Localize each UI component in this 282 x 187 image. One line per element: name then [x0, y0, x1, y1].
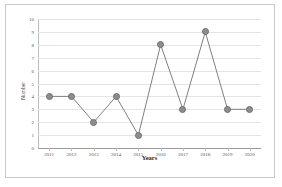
x-axis-tick-mark [183, 148, 184, 151]
y-axis-tick-label: 5 [32, 81, 35, 86]
y-axis-tick-label: 7 [32, 55, 35, 60]
y-axis-tick-label: 9 [32, 29, 35, 34]
x-axis-tick-mark [94, 148, 95, 151]
data-point [224, 106, 231, 113]
x-axis-title: Years [38, 155, 261, 162]
y-axis-tick-label: 0 [32, 146, 35, 151]
line-series [38, 19, 261, 148]
y-axis-tick-label: 10 [29, 17, 34, 22]
data-point [90, 119, 97, 126]
x-axis-tick-mark [138, 148, 139, 151]
x-axis-tick-mark [49, 148, 50, 151]
x-axis-tick-mark [250, 148, 251, 151]
y-axis-tick-label: 4 [32, 94, 35, 99]
data-point [68, 93, 75, 100]
x-axis-tick-mark [228, 148, 229, 151]
data-point [135, 132, 142, 139]
plot-area: 012345678910 201120122013201420152016201… [38, 19, 261, 148]
data-point [46, 93, 53, 100]
x-axis-tick-mark [116, 148, 117, 151]
y-axis-tick-label: 3 [32, 107, 35, 112]
x-axis-tick-mark [161, 148, 162, 151]
y-axis-tick-label: 8 [32, 42, 35, 47]
y-axis-title: Number [21, 82, 27, 100]
chart-container: Number 012345678910 20112012201320142015… [5, 4, 275, 178]
y-axis-tick-label: 2 [32, 120, 35, 125]
y-axis-tick-label: 6 [32, 68, 35, 73]
data-point [113, 93, 120, 100]
x-axis-tick-mark [71, 148, 72, 151]
y-axis-tick-label: 1 [32, 133, 35, 138]
x-axis-tick-mark [205, 148, 206, 151]
